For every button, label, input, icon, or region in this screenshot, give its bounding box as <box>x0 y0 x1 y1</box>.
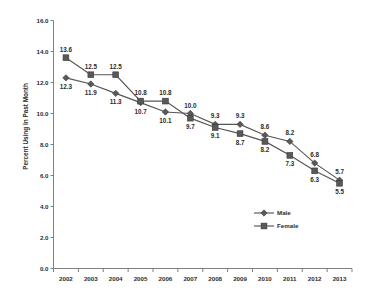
series-line-male <box>66 78 340 180</box>
data-label-male: 12.3 <box>60 83 73 90</box>
line-chart: 0.02.04.06.08.010.012.014.016.0 20022003… <box>0 0 373 293</box>
series-container <box>63 55 343 186</box>
series-line-female <box>66 58 340 184</box>
x-tick-label: 2006 <box>159 275 173 282</box>
data-label-male: 9.3 <box>236 112 245 119</box>
point-marker-male <box>162 109 168 115</box>
point-marker-female <box>312 168 318 174</box>
y-tick-label: 4.0 <box>40 203 49 210</box>
data-label-male: 11.3 <box>110 98 122 105</box>
y-tick-label: 6.0 <box>40 172 49 179</box>
data-label-female: 9.7 <box>186 123 195 130</box>
x-tick-label: 2004 <box>109 275 123 282</box>
x-tick-label: 2010 <box>258 275 272 282</box>
point-marker-female <box>261 223 267 229</box>
y-tick-label: 0.0 <box>40 265 49 272</box>
point-marker-female <box>63 55 69 61</box>
point-marker-female <box>113 72 119 78</box>
data-label-male: 8.6 <box>261 123 270 130</box>
y-tick-label: 2.0 <box>40 234 49 241</box>
point-marker-female <box>88 72 94 78</box>
x-tick-label: 2007 <box>183 275 197 282</box>
data-label-male: 11.9 <box>85 89 97 96</box>
y-axis-title: Percent Using In Past Month <box>22 83 30 170</box>
data-label-male: 10.0 <box>184 102 197 109</box>
x-tick-label: 2003 <box>84 275 98 282</box>
x-tick-label: 2013 <box>333 275 347 282</box>
data-label-male: 5.7 <box>335 168 344 175</box>
point-marker-female <box>287 152 293 158</box>
y-tick-label: 10.0 <box>36 110 49 117</box>
chart-legend: MaleFemale <box>254 209 299 229</box>
data-label-female: 8.2 <box>261 146 270 153</box>
point-marker-male <box>237 121 243 127</box>
data-label-female: 10.8 <box>159 89 172 96</box>
x-tick-label: 2011 <box>283 275 297 282</box>
y-tick-label: 8.0 <box>40 141 49 148</box>
data-label-female: 5.5 <box>335 188 344 195</box>
data-label-female: 7.3 <box>285 160 294 167</box>
data-label-male: 10.1 <box>159 117 172 124</box>
data-label-male: 10.7 <box>134 108 147 115</box>
point-marker-female <box>237 131 243 137</box>
point-marker-female <box>138 98 144 104</box>
data-label-female: 9.1 <box>211 132 220 139</box>
y-axis-title-text: Percent Using In Past Month <box>22 83 30 170</box>
legend-label-male: Male <box>277 209 291 216</box>
point-marker-male <box>262 132 268 138</box>
x-tick-label: 2002 <box>59 275 73 282</box>
chart-canvas: 0.02.04.06.08.010.012.014.016.0 20022003… <box>0 0 373 293</box>
data-label-female: 6.3 <box>310 176 319 183</box>
data-label-male: 9.3 <box>211 112 220 119</box>
legend-label-female: Female <box>277 222 299 229</box>
point-marker-female <box>163 98 169 104</box>
data-label-male: 6.8 <box>310 151 319 158</box>
x-tick-label: 2009 <box>233 275 247 282</box>
point-marker-female <box>337 180 343 186</box>
data-label-female: 12.5 <box>110 63 123 70</box>
data-label-female: 12.5 <box>85 63 98 70</box>
y-tick-label: 14.0 <box>36 48 49 55</box>
x-tick-label: 2012 <box>308 275 322 282</box>
point-marker-male <box>88 81 94 87</box>
x-tick-label: 2008 <box>208 275 222 282</box>
data-labels-container: 12.311.911.310.710.110.09.39.38.68.26.85… <box>60 46 345 196</box>
y-tick-label: 12.0 <box>36 79 49 86</box>
point-marker-male <box>112 90 118 96</box>
data-label-female: 8.7 <box>236 139 245 146</box>
x-axis: 2002200320042005200620072008200920102011… <box>54 269 353 282</box>
point-marker-female <box>262 139 268 145</box>
data-label-male: 8.2 <box>285 129 294 136</box>
point-marker-female <box>212 125 218 131</box>
data-label-female: 10.8 <box>134 89 147 96</box>
y-axis: 0.02.04.06.08.010.012.014.016.0 <box>36 17 53 272</box>
point-marker-female <box>187 115 193 121</box>
point-marker-male <box>261 210 267 216</box>
x-tick-label: 2005 <box>134 275 148 282</box>
y-tick-label: 16.0 <box>36 17 49 24</box>
data-label-female: 13.6 <box>60 46 73 53</box>
point-marker-male <box>63 75 69 81</box>
